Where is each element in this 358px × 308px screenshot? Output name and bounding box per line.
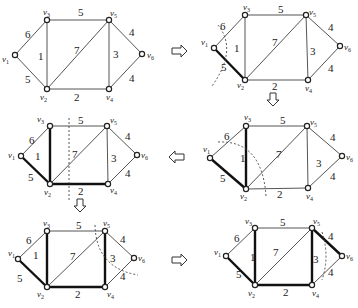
label-v2: v2 (248, 288, 255, 299)
node-v2 (252, 282, 257, 287)
edge-v5-v6 (312, 228, 342, 256)
node-v1 (207, 155, 212, 160)
edge-v2-v5 (255, 228, 312, 285)
weight-v4-v6: 4 (129, 72, 135, 84)
label-v2: v2 (240, 191, 247, 202)
label-v6: v6 (147, 50, 154, 61)
weight-v2-v4: 2 (283, 286, 289, 298)
graph-step-4: 6 5 1 5 7 2 3 4 4 v1 v3 v5 v6 v2 v4 (8, 114, 148, 200)
label-v4: v4 (107, 289, 114, 300)
node-v5 (102, 228, 107, 233)
weight-v2-v4: 2 (74, 91, 80, 103)
label-v3: v3 (43, 218, 50, 229)
weight-v1-v2: 5 (220, 172, 226, 184)
graph-step-1: 6 5 1 5 7 2 3 4 4 v1 v3 v5 v6 v2 v4 (2, 6, 154, 103)
node-v5 (106, 17, 111, 22)
label-v3: v3 (244, 112, 251, 123)
weight-v1-v2: 5 (236, 268, 242, 280)
weight-v1-v3: 6 (29, 134, 35, 146)
label-v6: v6 (138, 253, 145, 264)
label-v3: v3 (243, 2, 250, 13)
node-v2 (44, 86, 49, 91)
node-v1 (211, 45, 216, 50)
node-v3 (47, 123, 52, 128)
weight-v3-v5: 5 (78, 114, 84, 126)
node-v2 (47, 181, 52, 186)
label-v2: v2 (37, 289, 44, 300)
weight-v2-v5: 7 (72, 148, 78, 160)
edge-v5-v6 (107, 126, 137, 155)
node-v5 (309, 225, 314, 230)
node-v1 (12, 52, 17, 57)
node-v5 (304, 123, 309, 128)
weight-v5-v6: 4 (328, 230, 334, 242)
node-v2 (242, 77, 247, 82)
weight-v3-v5: 5 (280, 216, 286, 228)
weight-v2-v5: 7 (273, 246, 279, 258)
weight-v2-v4: 2 (78, 185, 84, 197)
node-v6 (134, 152, 139, 157)
node-v3 (243, 123, 248, 128)
weight-v3-v2: 1 (35, 150, 41, 162)
weight-v5-v4: 3 (313, 253, 319, 265)
edge-v5-v4 (107, 126, 108, 184)
weight-v5-v6: 4 (328, 21, 334, 33)
node-v5 (104, 123, 109, 128)
cut-line (95, 225, 138, 275)
node-v3 (44, 228, 49, 233)
label-v1: v1 (201, 37, 208, 48)
weight-v2-v5: 7 (70, 250, 76, 262)
cut-line (212, 25, 227, 86)
graph-step-3: 6 5 1 5 7 2 3 4 4 v1 v3 v5 v6 v2 v4 (203, 112, 353, 202)
label-v6: v6 (346, 251, 353, 262)
label-v5: v5 (110, 8, 117, 19)
node-v2 (44, 284, 49, 289)
graph-step-6: 6 5 1 5 7 2 3 4 4 v1 v3 v5 v6 v2 v4 (214, 216, 353, 299)
weight-v5-v6: 4 (330, 131, 336, 143)
weight-v3-v5: 5 (76, 219, 82, 231)
weight-v2-v4: 2 (272, 80, 278, 92)
weight-v5-v4: 3 (113, 48, 119, 60)
edge-v5-v6 (306, 15, 340, 46)
weight-v1-v3: 6 (224, 130, 230, 142)
node-v2 (243, 186, 248, 191)
label-v5: v5 (309, 7, 316, 18)
weight-v3-v2: 1 (38, 50, 44, 62)
label-v4: v4 (312, 288, 319, 299)
weight-v5-v4: 3 (310, 45, 316, 57)
label-v6: v6 (344, 42, 351, 53)
arrow-down-icon (74, 199, 86, 212)
label-v5: v5 (310, 117, 317, 128)
weight-v2-v5: 7 (74, 44, 80, 56)
node-v4 (305, 77, 310, 82)
label-v6: v6 (346, 152, 353, 163)
weight-v3-v2: 1 (234, 42, 240, 54)
weight-v2-v5: 7 (272, 36, 278, 48)
weight-v3-v5: 5 (78, 6, 84, 18)
weight-v4-v6: 4 (328, 62, 334, 74)
label-v1: v1 (214, 247, 221, 258)
weight-v2-v4: 2 (277, 188, 283, 200)
weight-v5-v6: 4 (129, 26, 135, 38)
weight-v4-v6: 4 (125, 167, 131, 179)
graph-step-5: 6 5 1 5 7 2 3 4 4 v1 v3 v5 v6 v2 v4 (8, 218, 145, 300)
cut-line (218, 142, 266, 196)
arrow-down-icon (267, 93, 279, 106)
weight-v1-v2: 5 (17, 272, 23, 284)
label-v4: v4 (110, 185, 117, 196)
weight-v1-v3: 6 (26, 234, 32, 246)
weight-v3-v2: 1 (250, 251, 256, 263)
weight-v1-v2: 5 (28, 171, 34, 183)
weight-v3-v5: 5 (278, 3, 284, 15)
label-v3: v3 (43, 7, 50, 18)
node-v5 (303, 12, 308, 17)
weight-v1-v2: 5 (25, 73, 31, 85)
label-v4: v4 (305, 83, 312, 94)
label-v2: v2 (44, 187, 51, 198)
arrow-right-icon (172, 254, 187, 266)
weight-v5-v4: 3 (111, 152, 117, 164)
node-v6 (339, 253, 344, 258)
label-v1: v1 (8, 248, 15, 259)
node-v4 (309, 282, 314, 287)
node-v6 (139, 51, 144, 56)
